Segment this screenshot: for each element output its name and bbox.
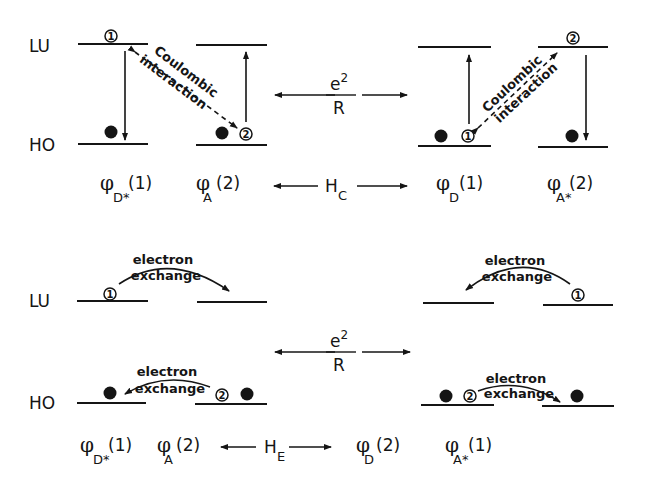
electron-filled-icon xyxy=(435,130,448,143)
electron-label: electron xyxy=(486,371,547,386)
svg-text:(1): (1) xyxy=(459,173,483,193)
svg-text:1: 1 xyxy=(465,131,472,142)
svg-text:φ: φ xyxy=(100,171,114,195)
exchange-label: exchange xyxy=(131,268,201,283)
state-label-phi-a-star-1: φ A* (1) xyxy=(445,433,492,467)
operator-hc: H C xyxy=(325,176,347,203)
svg-text:A*: A* xyxy=(453,452,469,467)
svg-text:E: E xyxy=(277,449,285,464)
state-label-phi-d-star-1: φ D* (1) xyxy=(100,171,152,205)
electron-filled-icon xyxy=(105,126,118,139)
electron-1-open-icon: 1 xyxy=(572,289,584,301)
svg-text:D: D xyxy=(364,452,374,467)
electron-2-open-icon: 2 xyxy=(240,128,252,140)
svg-text:2: 2 xyxy=(570,33,577,44)
e-symbol: e2 xyxy=(330,71,348,94)
electron-label: electron xyxy=(137,364,198,379)
exchange-label: exchange xyxy=(482,269,552,284)
electron-1-open-icon: 1 xyxy=(105,30,117,42)
energy-transfer-diagram: LU HO 1 2 Coulombic interaction e2 R xyxy=(0,0,648,493)
operator-he: H E xyxy=(264,437,285,464)
svg-text:2: 2 xyxy=(219,390,226,401)
svg-text:(2): (2) xyxy=(569,173,593,193)
state-label-phi-d-star-1: φ D* (1) xyxy=(80,433,132,467)
svg-text:C: C xyxy=(338,188,347,203)
electron-filled-icon xyxy=(571,390,584,403)
svg-text:φ: φ xyxy=(436,171,450,195)
exchange-panel: LU HO 1 electron exchange 2 electron exc… xyxy=(29,252,614,467)
electron-filled-icon xyxy=(566,130,579,143)
svg-text:(1): (1) xyxy=(468,435,492,455)
svg-text:(2): (2) xyxy=(176,435,200,455)
lu-label: LU xyxy=(29,36,50,56)
svg-text:A: A xyxy=(203,190,212,205)
svg-text:(1): (1) xyxy=(108,435,132,455)
ho-label: HO xyxy=(29,135,55,155)
electron-2-open-icon: 2 xyxy=(216,389,228,401)
electron-filled-icon xyxy=(440,390,453,403)
lu-label: LU xyxy=(29,291,50,311)
electron-filled-icon xyxy=(241,388,254,401)
svg-text:H: H xyxy=(325,176,338,196)
e-symbol: e2 xyxy=(330,328,348,351)
state-label-phi-d-2: φ D (2) xyxy=(356,433,400,467)
state-label-phi-a-2: φ A (2) xyxy=(157,433,200,467)
svg-text:(2): (2) xyxy=(216,173,240,193)
svg-text:1: 1 xyxy=(575,290,582,301)
exchange-label: exchange xyxy=(484,386,554,401)
electron-filled-icon xyxy=(216,127,229,140)
electron-label: electron xyxy=(133,252,194,267)
electron-2-open-icon: 2 xyxy=(567,32,579,44)
svg-text:φ: φ xyxy=(80,433,94,457)
electron-label: electron xyxy=(485,253,546,268)
ho-label: HO xyxy=(29,393,55,413)
state-label-phi-a-2: φ A (2) xyxy=(196,171,240,205)
electron-1-open-icon: 1 xyxy=(104,288,116,300)
r-symbol: R xyxy=(333,98,345,118)
svg-text:1: 1 xyxy=(107,289,114,300)
r-symbol: R xyxy=(333,355,345,375)
coulombic-panel: LU HO 1 2 Coulombic interaction e2 R xyxy=(29,30,608,205)
electron-2-open-icon: 2 xyxy=(464,390,476,402)
svg-text:A: A xyxy=(164,452,173,467)
svg-text:D: D xyxy=(449,190,459,205)
state-label-phi-d-1: φ D (1) xyxy=(436,171,483,205)
svg-text:1: 1 xyxy=(108,31,115,42)
electron-1-open-icon: 1 xyxy=(462,130,474,142)
svg-text:2: 2 xyxy=(467,391,474,402)
svg-text:(1): (1) xyxy=(128,173,152,193)
electron-filled-icon xyxy=(104,387,117,400)
exchange-label: exchange xyxy=(135,381,205,396)
svg-text:2: 2 xyxy=(243,129,250,140)
state-label-phi-a-star-2: φ A* (2) xyxy=(547,171,593,205)
svg-text:(2): (2) xyxy=(376,435,400,455)
svg-text:H: H xyxy=(264,437,277,457)
